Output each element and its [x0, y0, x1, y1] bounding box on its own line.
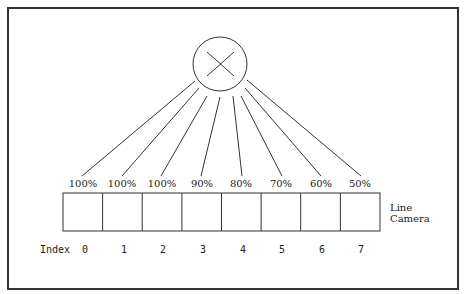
camera-label-line1: Line: [390, 202, 430, 213]
line-camera-label: Line Camera: [390, 202, 430, 224]
index-6: 6: [302, 244, 342, 255]
intensity-label-3: 90%: [182, 178, 222, 189]
intensity-label-1: 100%: [102, 178, 142, 189]
light-source-icon: [193, 37, 247, 91]
index-4: 4: [223, 244, 263, 255]
light-rays: [82, 80, 361, 176]
intensity-label-4: 80%: [221, 178, 261, 189]
index-5: 5: [262, 244, 302, 255]
intensity-label-7: 50%: [340, 178, 380, 189]
index-1: 1: [104, 244, 144, 255]
intensity-label-6: 60%: [301, 178, 341, 189]
line-camera-pixels: [63, 193, 380, 231]
index-7: 7: [341, 244, 381, 255]
camera-label-line2: Camera: [390, 213, 430, 224]
index-3: 3: [183, 244, 223, 255]
index-2: 2: [143, 244, 183, 255]
intensity-label-2: 100%: [142, 178, 182, 189]
index-0: 0: [65, 244, 105, 255]
intensity-label-5: 70%: [261, 178, 301, 189]
intensity-label-0: 100%: [63, 178, 103, 189]
